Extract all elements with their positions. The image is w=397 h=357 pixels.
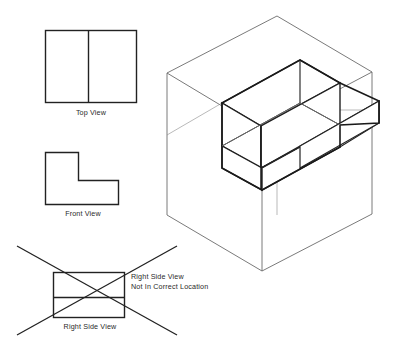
projection-line-left — [167, 103, 222, 135]
right-side-view-annotation-line-2: Not In Correct Location — [131, 282, 251, 292]
top-view-group — [46, 31, 137, 103]
right-side-view-annotation: Right Side View Not In Correct Location — [131, 272, 251, 291]
right-side-view-annotation-line-1: Right Side View — [131, 272, 251, 282]
top-view-label: Top View — [45, 108, 137, 118]
front-view-group — [46, 153, 119, 205]
engineering-drawing-svg — [0, 0, 397, 357]
l-block-group — [167, 60, 379, 215]
glass-box-bottom-left-edge — [167, 215, 262, 271]
drawing-canvas: Top View Front View Right Side View Righ… — [0, 0, 397, 357]
glass-box-bottom-right-edge — [262, 214, 372, 271]
front-view-label: Front View — [45, 209, 121, 219]
right-side-view-label: Right Side View — [50, 322, 130, 332]
front-view-l-outline — [46, 153, 119, 205]
top-view-outline — [46, 31, 137, 103]
